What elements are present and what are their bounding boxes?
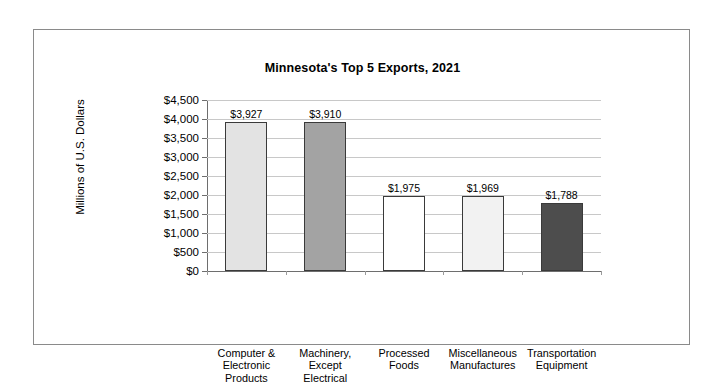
x-axis-tick: [365, 271, 366, 275]
x-axis-tick: [286, 271, 287, 275]
y-axis-tick: [202, 214, 207, 215]
bar-value-label: $1,788: [546, 189, 578, 201]
y-axis-title: Millions of U.S. Dollars: [74, 62, 86, 252]
x-axis-category-line: Equipment: [514, 359, 610, 371]
y-axis-tick: [202, 119, 207, 120]
y-axis-line: [207, 100, 208, 272]
bar: $3,927: [225, 122, 267, 271]
y-axis-tick: [202, 138, 207, 139]
x-axis-category-line: Electrical: [277, 372, 373, 384]
x-axis-tick: [601, 271, 602, 275]
bar-value-label: $3,927: [230, 108, 262, 120]
y-axis-tick: [202, 195, 207, 196]
y-axis-tick: [202, 233, 207, 234]
bar: $1,788: [541, 203, 583, 271]
chart-title: Minnesota's Top 5 Exports, 2021: [34, 61, 691, 75]
y-axis-tick-label: $0: [186, 265, 199, 277]
bar: $3,910: [304, 122, 346, 271]
gridline: [207, 119, 601, 120]
bar-value-label: $3,910: [309, 108, 341, 120]
y-axis-tick: [202, 176, 207, 177]
y-axis-tick: [202, 157, 207, 158]
chart-figure-frame: Minnesota's Top 5 Exports, 2021 Millions…: [33, 29, 690, 345]
bar: $1,975: [383, 196, 425, 271]
y-axis-tick-label: $4,000: [164, 113, 199, 125]
gridline: [207, 100, 601, 101]
x-axis-category-line: Transportation: [514, 347, 610, 359]
y-axis-tick-label: $2,500: [164, 170, 199, 182]
bar-value-label: $1,975: [388, 182, 420, 194]
bar: $1,969: [462, 196, 504, 271]
x-axis-tick: [522, 271, 523, 275]
y-axis-tick-label: $3,000: [164, 151, 199, 163]
bar-value-label: $1,969: [467, 182, 499, 194]
y-axis-tick-label: $1,000: [164, 227, 199, 239]
x-axis-baseline: [207, 271, 601, 272]
y-axis-tick-label: $2,000: [164, 189, 199, 201]
y-axis-tick-label: $3,500: [164, 132, 199, 144]
y-axis-tick-label: $500: [173, 246, 199, 258]
y-axis-tick-label: $1,500: [164, 208, 199, 220]
plot-area: $4,500$4,000$3,500$3,000$2,500$2,000$1,5…: [207, 100, 601, 271]
y-axis-tick: [202, 100, 207, 101]
x-axis-tick: [207, 271, 208, 275]
y-axis-tick: [202, 252, 207, 253]
y-axis-tick-label: $4,500: [164, 94, 199, 106]
x-axis-tick: [443, 271, 444, 275]
x-axis-category-label: TransportationEquipment: [514, 347, 610, 372]
